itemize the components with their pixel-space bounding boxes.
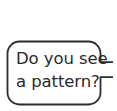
speech-bubble-text: Do you see a pattern? xyxy=(16,47,98,93)
speech-bubble-text-line-1: Do you see xyxy=(16,47,98,70)
speech-bubble-text-line-2: a pattern? xyxy=(16,70,98,93)
tail-offscreen-mask xyxy=(113,61,117,80)
speech-bubble-canvas: Do you see a pattern? xyxy=(0,0,117,111)
